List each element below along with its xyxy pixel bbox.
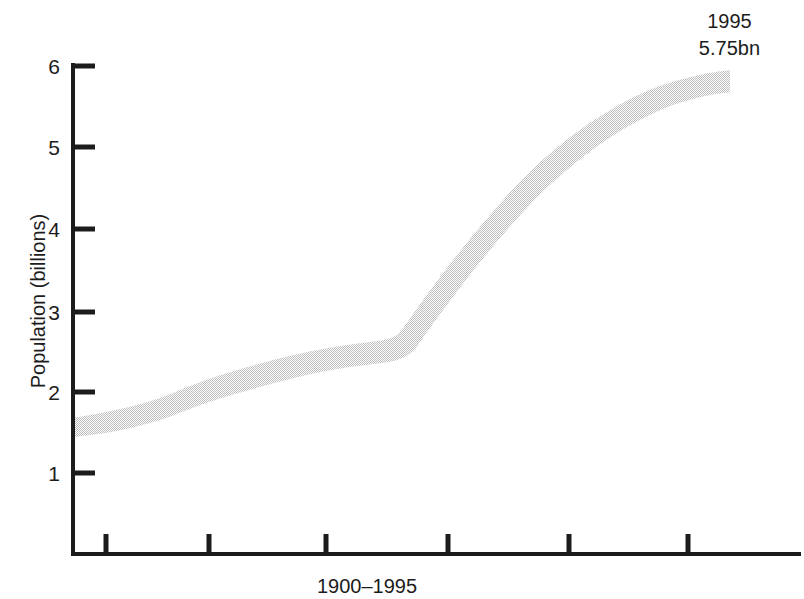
endpoint-annotation-value: 5.75bn — [699, 35, 760, 62]
endpoint-annotation-year: 1995 — [699, 8, 760, 35]
y-tick-label-1: 1 — [32, 463, 60, 484]
y-tick-label-5: 5 — [32, 137, 60, 158]
chart-axes — [0, 0, 804, 599]
x-axis-title-text: 1900–1995 — [317, 575, 417, 597]
y-axis-title: Population (billions) — [27, 171, 49, 431]
x-axis-title: 1900–1995 — [0, 575, 804, 597]
endpoint-annotation: 1995 5.75bn — [699, 8, 760, 62]
population-chart: 6 5 4 3 2 1 Population (billions) 1900–1… — [0, 0, 804, 599]
y-tick-label-6: 6 — [32, 56, 60, 77]
